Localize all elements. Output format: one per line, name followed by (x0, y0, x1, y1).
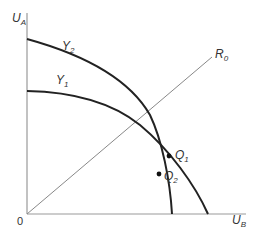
curve-y2 (27, 39, 172, 214)
point-q1 (167, 154, 172, 159)
utility-frontier-diagram: UA UB 0 Y2 Y1 R0 Q1 Q2 (0, 0, 253, 239)
y-axis-label: UA (12, 11, 26, 27)
curve-y1-label: Y1 (56, 73, 68, 89)
point-q1-label: Q1 (175, 148, 189, 164)
curve-y2-label: Y2 (62, 39, 75, 55)
point-q2 (157, 172, 162, 177)
ray-r0-label: R0 (215, 47, 229, 63)
origin-label: 0 (17, 215, 23, 227)
x-axis-label: UB (232, 213, 247, 229)
point-q2-label: Q2 (164, 169, 178, 185)
